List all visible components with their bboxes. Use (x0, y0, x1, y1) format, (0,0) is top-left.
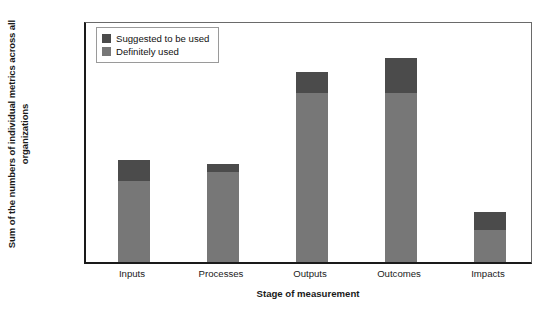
chart-legend: Suggested to be used Definitely used (96, 27, 219, 63)
legend-label: Definitely used (116, 45, 179, 58)
bar-segment-suggested (296, 72, 328, 92)
bar-segment-suggested (207, 164, 239, 172)
legend-entry-suggested[interactable]: Suggested to be used (102, 32, 209, 45)
y-axis-title: Sum of the numbers of individual metrics… (6, 9, 40, 259)
x-tick-label-impacts: Impacts (433, 268, 543, 279)
legend-entry-definitely[interactable]: Definitely used (102, 45, 209, 58)
bar-segment-definitely (118, 181, 150, 262)
bar-inputs[interactable] (118, 160, 150, 262)
bar-segment-definitely (474, 230, 506, 262)
bar-impacts[interactable] (474, 212, 506, 262)
bar-segment-definitely (385, 93, 417, 262)
bar-outcomes[interactable] (385, 58, 417, 262)
bar-segment-definitely (296, 93, 328, 262)
bar-outputs[interactable] (296, 72, 328, 262)
bar-processes[interactable] (207, 164, 239, 262)
bar-segment-suggested (118, 160, 150, 182)
legend-swatch-icon (102, 47, 111, 56)
chart-figure: Sum of the numbers of individual metrics… (0, 0, 553, 317)
bar-segment-definitely (207, 172, 239, 262)
bar-segment-suggested (385, 58, 417, 93)
legend-swatch-icon (102, 34, 111, 43)
x-axis-title: Stage of measurement (84, 288, 532, 299)
legend-label: Suggested to be used (116, 32, 209, 45)
bar-segment-suggested (474, 212, 506, 230)
